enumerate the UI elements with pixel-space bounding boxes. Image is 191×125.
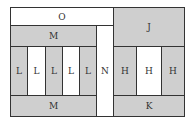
region-n: N — [96, 25, 114, 117]
region-l5: L — [79, 46, 97, 96]
region-m-top: M — [10, 25, 97, 47]
region-label: L — [51, 66, 57, 76]
region-label: J — [147, 22, 151, 32]
region-o: O — [10, 7, 114, 26]
region-label: L — [16, 66, 22, 76]
region-k: K — [113, 95, 185, 117]
region-label: M — [49, 101, 58, 111]
region-h3: H — [161, 46, 185, 96]
region-l2: L — [27, 46, 46, 96]
region-label: N — [101, 66, 109, 76]
region-label: L — [85, 66, 91, 76]
region-l3: L — [45, 46, 63, 96]
region-h1: H — [113, 46, 137, 96]
region-label: L — [68, 66, 74, 76]
region-h2: H — [136, 46, 162, 96]
region-label: L — [34, 66, 40, 76]
region-label: H — [121, 66, 129, 76]
region-label: M — [49, 31, 58, 41]
region-label: O — [58, 12, 65, 22]
region-m-bottom: M — [10, 95, 97, 117]
region-label: K — [146, 101, 153, 111]
region-label: H — [145, 66, 153, 76]
region-j: J — [113, 7, 185, 47]
region-label: H — [169, 66, 177, 76]
region-l4: L — [62, 46, 80, 96]
region-l1: L — [10, 46, 28, 96]
